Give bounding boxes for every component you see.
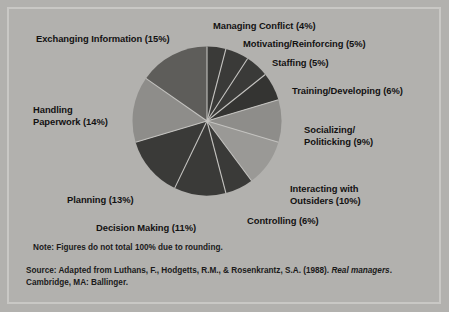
slice-label-planning: Planning (13%) [67, 194, 134, 206]
pie-svg: Managing Conflict 4%Motivating/Reinforci… [132, 46, 282, 196]
note-text: Note: Figures do not total 100% due to r… [33, 243, 223, 252]
slice-label-handling-paperwork: Handling Paperwork (14%) [33, 104, 108, 127]
pie-chart-figure: Managing Conflict 4%Motivating/Reinforci… [0, 0, 449, 312]
source-title-italic: Real managers [331, 266, 389, 275]
slice-label-exchanging-information: Exchanging Information (15%) [36, 33, 170, 45]
slice-label-socializing-politicking: Socializing/ Politicking (9%) [304, 124, 373, 147]
slice-label-controlling: Controlling (6%) [247, 215, 319, 227]
slice-label-training-developing: Training/Developing (6%) [292, 85, 403, 97]
source-text: Source: Adapted from Luthans, F., Hodget… [26, 265, 428, 290]
source-prefix: Source: Adapted from Luthans, F., Hodget… [26, 266, 331, 275]
slice-label-staffing: Staffing (5%) [272, 57, 329, 69]
slice-label-interacting-with-outsiders: Interacting with Outsiders (10%) [290, 183, 361, 206]
slice-label-decision-making: Decision Making (11%) [96, 222, 196, 234]
slice-label-motivating-reinforcing: Motivating/Reinforcing (5%) [243, 38, 366, 50]
pie-chart: Managing Conflict 4%Motivating/Reinforci… [132, 46, 282, 196]
slice-label-managing-conflict: Managing Conflict (4%) [213, 20, 316, 32]
